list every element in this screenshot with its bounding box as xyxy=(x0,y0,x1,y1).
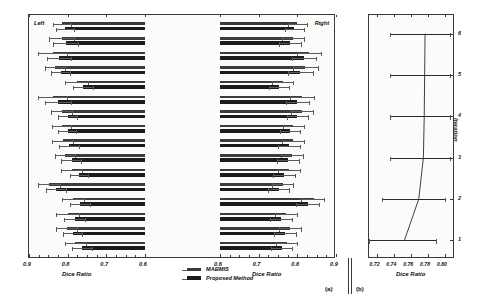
axis-tick-minor xyxy=(126,255,127,257)
error-bar xyxy=(38,97,67,98)
y-axis-tick xyxy=(450,34,453,35)
bar-mabmis xyxy=(220,22,297,25)
error-bar xyxy=(382,199,445,200)
bar-proposed xyxy=(220,27,294,31)
axis-tick-top xyxy=(377,15,378,17)
legend-swatch-mabmis xyxy=(187,268,201,271)
axis-tick-top xyxy=(411,15,412,17)
axis-tick-minor xyxy=(58,255,59,257)
error-bar xyxy=(38,184,61,185)
axis-tick-minor xyxy=(239,255,240,257)
error-bar xyxy=(277,160,300,161)
error-bar xyxy=(278,146,300,147)
axis-tick-top xyxy=(259,15,260,17)
axis-tick xyxy=(297,254,298,257)
axis-tick-minor xyxy=(249,255,250,257)
axis-tick-minor xyxy=(39,255,40,257)
error-bar xyxy=(56,29,75,30)
error-bar xyxy=(58,131,77,132)
error-bar xyxy=(272,184,293,185)
bar-proposed xyxy=(73,232,145,236)
error-bar xyxy=(52,141,74,142)
error-bar xyxy=(270,219,292,220)
legend-label-proposed: Proposed Method xyxy=(206,275,253,281)
axis-tick-minor xyxy=(307,255,308,257)
axis-tick-minor xyxy=(97,255,98,257)
bar-mabmis xyxy=(62,110,145,113)
panel-b-line-chart xyxy=(368,14,454,258)
axis-tick-minor xyxy=(116,255,117,257)
error-bar xyxy=(282,38,305,39)
panel-a-right-axis-title: Dice Ratio xyxy=(252,271,281,277)
error-bar xyxy=(288,72,314,73)
error-bar xyxy=(61,160,81,161)
error-bar xyxy=(49,38,75,39)
error-bar xyxy=(72,248,92,249)
error-bar xyxy=(291,111,313,112)
axis-tick-label: 0.8 xyxy=(62,261,70,267)
axis-tick-top xyxy=(220,15,221,17)
axis-tick-minor xyxy=(317,255,318,257)
error-bar xyxy=(274,233,296,234)
axis-tick-minor xyxy=(48,255,49,257)
error-bar xyxy=(45,67,66,68)
y-axis-tick xyxy=(450,116,453,117)
error-bar xyxy=(279,43,302,44)
axis-tick-top xyxy=(29,15,30,17)
panel-b-tag: (b) xyxy=(356,285,364,292)
axis-tick-top xyxy=(394,15,395,17)
bar-mabmis xyxy=(220,110,302,113)
axis-tick xyxy=(411,254,412,257)
axis-tick xyxy=(428,254,429,257)
error-bar xyxy=(56,214,79,215)
iteration-tick-label: 6 xyxy=(458,30,461,36)
axis-tick-minor xyxy=(135,255,136,257)
y-axis-tick xyxy=(450,158,453,159)
error-bar xyxy=(273,175,295,176)
error-bar xyxy=(47,58,72,59)
bar-mabmis xyxy=(62,125,145,128)
axis-tick-top xyxy=(428,15,429,17)
y-axis-tick xyxy=(450,240,453,241)
error-bar xyxy=(390,158,451,159)
error-bar xyxy=(268,189,290,190)
y-axis-tick xyxy=(450,75,453,76)
error-bar xyxy=(59,146,79,147)
panel-a-tag: (a) xyxy=(325,285,333,292)
axis-tick xyxy=(445,254,446,257)
panel-b-axis-title: Dice Ratio xyxy=(396,271,425,277)
iteration-tick-label: 5 xyxy=(458,71,461,77)
axis-tick-label: 0.80 xyxy=(437,261,447,267)
error-bar xyxy=(53,24,72,25)
panel-a-category-labels xyxy=(145,15,220,257)
error-bar xyxy=(286,102,310,103)
bar-proposed xyxy=(61,71,145,75)
error-bar xyxy=(51,72,70,73)
error-bar xyxy=(61,170,83,171)
error-bar xyxy=(290,97,314,98)
error-bar xyxy=(283,126,304,127)
axis-tick xyxy=(68,254,69,257)
error-bar xyxy=(70,204,91,205)
error-bar xyxy=(73,87,94,88)
error-bar xyxy=(271,248,293,249)
legend-swatch-proposed xyxy=(187,276,201,280)
axis-tick xyxy=(29,254,30,257)
error-bar xyxy=(282,141,304,142)
iteration-tick-label: 1 xyxy=(458,236,461,242)
axis-tick-label: 0.78 xyxy=(420,261,430,267)
iteration-tick-label: 3 xyxy=(458,154,461,160)
axis-tick xyxy=(220,254,221,257)
error-bar xyxy=(55,155,77,156)
error-bar xyxy=(301,199,325,200)
axis-tick-label: 0.9 xyxy=(23,261,31,267)
error-bar xyxy=(390,75,451,76)
right-hemisphere-note: Right xyxy=(315,20,329,26)
axis-tick xyxy=(106,254,107,257)
axis-tick-minor xyxy=(326,255,327,257)
error-bar xyxy=(53,43,79,44)
axis-tick-minor xyxy=(230,255,231,257)
axis-tick xyxy=(259,254,260,257)
axis-tick-label: 0.9 xyxy=(330,261,338,267)
axis-tick-label: 0.7 xyxy=(100,261,108,267)
